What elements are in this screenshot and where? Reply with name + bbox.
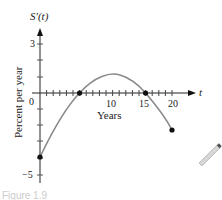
x-axis-title: Years	[97, 109, 122, 121]
pencil-icon[interactable]	[199, 143, 222, 166]
point-start	[37, 154, 42, 159]
y-axis-title: Percent per year	[12, 66, 24, 138]
tick-label-10: 10	[106, 98, 116, 109]
point-end	[169, 127, 174, 132]
x-axis-arrow-icon	[188, 90, 196, 96]
x-var-label: t	[199, 86, 203, 98]
tick-label-0: 0	[29, 96, 34, 107]
tick-label-3: 3	[30, 38, 35, 49]
chart: S′(t) t 3 0 −5 10 15 20 Years Percent pe…	[0, 0, 222, 200]
tick-label-20: 20	[168, 98, 178, 109]
point-root-1	[77, 90, 82, 95]
figure-caption: Figure 1.9	[2, 190, 47, 200]
point-root-2	[143, 90, 148, 95]
tick-label-15: 15	[139, 98, 149, 109]
tick-label-neg5: −5	[22, 169, 33, 180]
y-top-label: S′(t)	[30, 10, 49, 23]
y-axis-arrow-icon	[37, 28, 43, 36]
